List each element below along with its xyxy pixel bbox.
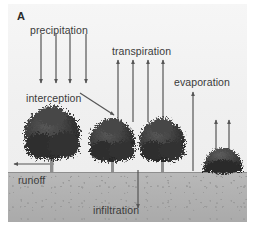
label-evaporation: evaporation [174,76,230,88]
label-interception: interception [26,92,81,104]
label-precipitation: precipitation [30,24,88,36]
label-infiltration: infiltration [93,204,139,216]
figure-panel: A precipitation interception transpirati… [8,4,247,222]
panel-letter: A [17,10,25,22]
label-transpiration: transpiration [112,45,171,57]
label-runoff: runoff [18,174,45,186]
